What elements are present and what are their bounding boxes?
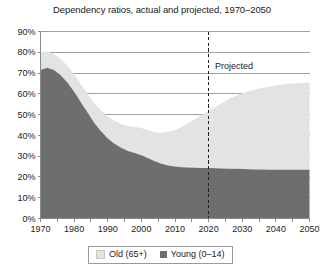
legend-item-young: Young (0–14) xyxy=(160,249,225,260)
y-tick-label-20: 20% xyxy=(17,172,35,182)
x-tick-label-2010: 2010 xyxy=(165,224,185,234)
projected-annotation-label: Projected xyxy=(215,61,253,71)
legend-label-young: Young (0–14) xyxy=(171,249,225,260)
y-tick-label-80: 80% xyxy=(17,47,35,57)
stacked-area-chart: 0%10%20%30%40%50%60%70%80%90% 1970198019… xyxy=(0,0,324,277)
chart-figure: Dependency ratios, actual and projected,… xyxy=(0,0,324,277)
y-tick-label-0: 0% xyxy=(22,214,35,224)
x-tick-label-1990: 1990 xyxy=(98,224,118,234)
y-tick-label-50: 50% xyxy=(17,110,35,120)
chart-legend: Old (65+) Young (0–14) xyxy=(88,246,233,264)
x-tick-label-1980: 1980 xyxy=(64,224,84,234)
legend-swatch-old xyxy=(96,250,105,259)
legend-swatch-young xyxy=(160,251,167,258)
area-series-group xyxy=(41,51,310,218)
x-tick-label-2050: 2050 xyxy=(299,224,319,234)
x-tick-label-2000: 2000 xyxy=(131,224,151,234)
y-tick-label-60: 60% xyxy=(17,89,35,99)
x-axis-tick-labels: 197019801990200020102020203020402050 xyxy=(30,219,319,234)
y-tick-label-30: 30% xyxy=(17,151,35,161)
x-tick-label-1970: 1970 xyxy=(30,224,50,234)
y-tick-label-70: 70% xyxy=(17,68,35,78)
x-tick-label-2030: 2030 xyxy=(232,224,252,234)
legend-item-old: Old (65+) xyxy=(96,249,147,260)
y-tick-label-40: 40% xyxy=(17,131,35,141)
y-axis-tick-labels: 0%10%20%30%40%50%60%70%80%90% xyxy=(17,27,40,224)
legend-label-old: Old (65+) xyxy=(109,249,147,260)
x-tick-label-2020: 2020 xyxy=(199,224,219,234)
x-tick-label-2040: 2040 xyxy=(266,224,286,234)
chart-annotations: Projected xyxy=(215,61,253,71)
y-tick-label-90: 90% xyxy=(17,27,35,37)
y-tick-label-10: 10% xyxy=(17,193,35,203)
